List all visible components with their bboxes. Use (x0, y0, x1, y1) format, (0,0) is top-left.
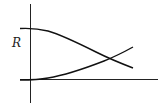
decreasing-curve (20, 28, 133, 68)
increasing-curve (20, 47, 133, 80)
y-axis-label: R (11, 36, 21, 50)
diagram-canvas: R (0, 0, 160, 106)
